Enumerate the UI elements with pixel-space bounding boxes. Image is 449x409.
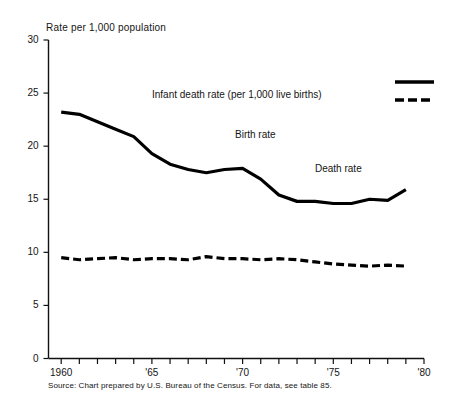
series-line-birth-rate: [61, 112, 406, 203]
chart-series-lines: [61, 112, 406, 266]
x-axis-tick-label: '70: [223, 367, 263, 378]
y-axis-tick-label: 20: [15, 140, 39, 151]
y-axis-tick-label: 5: [15, 299, 39, 310]
x-axis-tick-label: '65: [132, 367, 172, 378]
y-axis-tick-label: 15: [15, 193, 39, 204]
y-axis-ticks: [44, 40, 49, 359]
chart-annotation: Death rate: [315, 163, 362, 174]
chart-annotation: Birth rate: [235, 129, 276, 140]
chart-figure: Rate per 1,000 population 051015202530 1…: [0, 0, 449, 409]
chart-plot-area: [0, 0, 449, 409]
x-axis-tick-label: 1960: [41, 367, 81, 378]
y-axis-tick-label: 10: [15, 246, 39, 257]
y-axis-tick-label: 25: [15, 87, 39, 98]
x-axis-ticks: [61, 359, 424, 365]
x-axis-tick-label: '75: [313, 367, 353, 378]
source-note: Source: Chart prepared by U.S. Bureau of…: [48, 381, 332, 390]
chart-legend-marks: [395, 82, 434, 100]
x-axis-tick-label: '80: [404, 367, 444, 378]
series-line-death-rate: [61, 257, 406, 267]
y-axis-tick-label: 0: [15, 353, 39, 364]
chart-annotation: Infant death rate (per 1,000 live births…: [152, 89, 322, 100]
y-axis-tick-label: 30: [15, 34, 39, 45]
